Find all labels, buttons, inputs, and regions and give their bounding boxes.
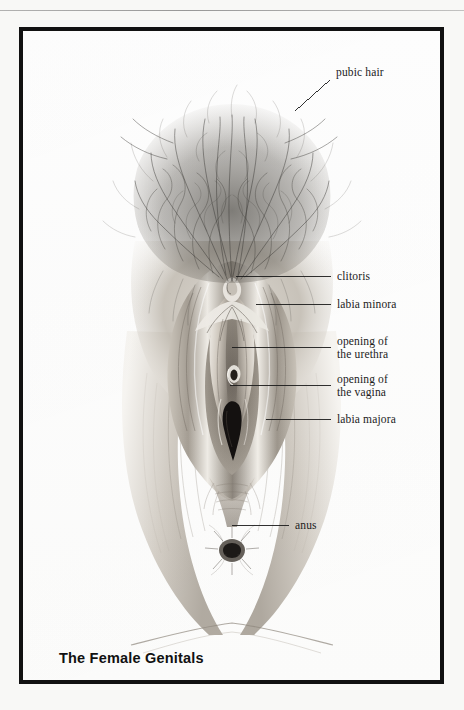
page-header-ghost-text — [70, 0, 114, 8]
label-opening-of-the-urethra: opening of the urethra — [337, 335, 388, 360]
label-opening-of-the-vagina: opening of the vagina — [337, 373, 388, 398]
figure-frame: pubic hair clitoris labia minora opening… — [19, 27, 444, 684]
label-labia-minora: labia minora — [337, 298, 397, 311]
label-anus: anus — [295, 519, 317, 532]
scanned-page: pubic hair clitoris labia minora opening… — [0, 0, 464, 710]
label-clitoris: clitoris — [337, 270, 370, 283]
figure-caption: The Female Genitals — [59, 650, 204, 666]
label-labia-majora: labia majora — [337, 413, 396, 426]
page-header-rule — [0, 10, 464, 11]
label-pubic-hair: pubic hair — [336, 66, 384, 79]
